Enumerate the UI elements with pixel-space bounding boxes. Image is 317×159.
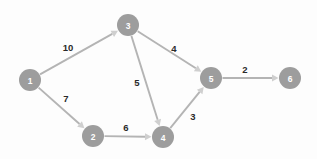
node-circle-1[interactable]	[19, 69, 41, 91]
node-circle-3[interactable]	[117, 14, 139, 36]
arrowhead-5-to-6	[272, 74, 279, 81]
arrowhead-3-to-4	[154, 119, 161, 126]
node-circle-4[interactable]	[152, 126, 174, 148]
graph-node-4[interactable]: 4	[152, 126, 174, 148]
edge-weight-label-4-5: 3	[190, 111, 195, 122]
graph-node-1[interactable]: 1	[19, 69, 41, 91]
graph-node-5[interactable]: 5	[200, 67, 222, 89]
edge-weight-label-2-4: 6	[123, 122, 128, 133]
arrowhead-2-to-4	[145, 133, 152, 140]
node-circle-5[interactable]	[200, 67, 222, 89]
edge-weight-label-1-2: 7	[63, 93, 68, 104]
graph-node-6[interactable]: 6	[279, 67, 301, 89]
node-circle-6[interactable]	[279, 67, 301, 89]
graph-node-2[interactable]: 2	[82, 125, 104, 147]
arrowheads-layer	[77, 31, 278, 141]
edge-labels-layer: 10765432	[63, 42, 248, 133]
edge-line-1-to-2	[39, 88, 80, 124]
graph-svg: 123456 10765432	[0, 0, 317, 159]
edge-weight-label-3-5: 4	[171, 43, 177, 54]
edge-weight-label-1-3: 10	[63, 42, 74, 53]
edge-weight-label-3-4: 5	[134, 77, 140, 88]
graph-node-3[interactable]: 3	[117, 14, 139, 36]
node-circle-2[interactable]	[82, 125, 104, 147]
edge-line-1-to-3	[40, 34, 112, 75]
edge-line-3-to-5	[138, 31, 196, 68]
edge-line-2-to-4	[105, 136, 146, 137]
nodes-layer: 123456	[19, 14, 301, 148]
edge-weight-label-5-6: 2	[242, 64, 247, 75]
graph-diagram-canvas: 123456 10765432	[0, 0, 317, 159]
